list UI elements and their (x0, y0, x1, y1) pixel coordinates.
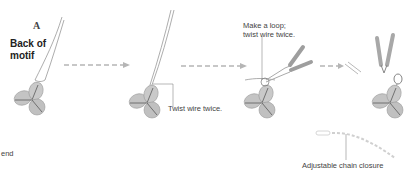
label-end: end (1, 149, 14, 158)
step-2-motif (127, 10, 174, 118)
step-letter: A (33, 20, 40, 31)
label-loop-line-2: twist wire twice. (243, 30, 295, 39)
diagram-illustration (0, 0, 407, 173)
label-loop-line-1: Make a loop; (243, 21, 286, 30)
nippers-icon (377, 35, 393, 73)
label-chain: Adjustable chain closure (302, 161, 383, 170)
arrow-2-icon (181, 63, 247, 69)
title-line-2: motif (10, 50, 34, 62)
chain-closure-icon (316, 131, 395, 160)
step-1-motif (12, 17, 64, 115)
arrow-1-icon (64, 62, 130, 68)
label-twist: Twist wire twice. (168, 104, 222, 113)
wire-cut-icon (345, 62, 361, 74)
title-line-1: Back of (10, 38, 46, 50)
instruction-diagram: A Back of motif Twist wire twice. Make a… (0, 0, 407, 173)
arrow-3-icon (320, 63, 344, 69)
pliers-icon (266, 47, 311, 82)
step-4-motif (370, 74, 403, 118)
